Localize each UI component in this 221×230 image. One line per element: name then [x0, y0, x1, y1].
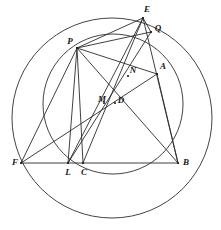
point-label-d: D [118, 96, 125, 105]
vertex-b [177, 162, 179, 164]
vertex-n [127, 75, 129, 77]
smaller-circle [43, 34, 183, 174]
point-label-e: E [144, 5, 150, 14]
vertex-f [20, 162, 22, 164]
segment-E-C [83, 18, 143, 163]
point-label-p: P [67, 37, 73, 46]
point-label-n: N [130, 66, 137, 75]
vertex-d [114, 102, 116, 104]
point-label-q: Q [155, 24, 162, 33]
vertex-l [67, 162, 69, 164]
vertices-layer [20, 17, 179, 164]
figure-canvas [0, 0, 221, 230]
segment-P-E [77, 18, 143, 48]
segment-P-L [68, 48, 77, 163]
segment-F-P [21, 48, 77, 163]
point-label-c: C [81, 168, 87, 177]
vertex-c [82, 162, 84, 164]
circles-layer [12, 18, 212, 218]
segment-A-B [157, 74, 178, 163]
geometry-figure: EQPANMDFLCB [0, 0, 221, 230]
vertex-e [142, 17, 144, 19]
point-label-l: L [65, 168, 71, 177]
segment-P-C [77, 48, 83, 163]
point-label-f: F [12, 158, 18, 167]
vertex-p [76, 47, 78, 49]
point-label-b: B [183, 158, 189, 167]
vertex-q [150, 31, 152, 33]
vertex-a [156, 73, 158, 75]
point-label-a: A [160, 62, 166, 71]
point-label-m: M [98, 95, 106, 104]
